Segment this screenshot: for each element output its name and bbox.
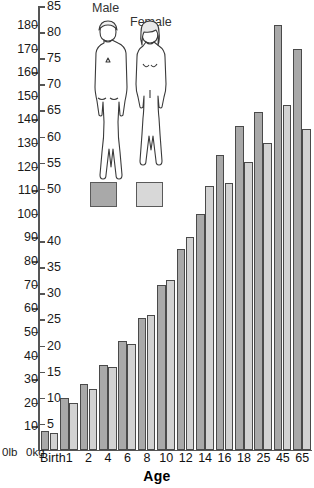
bar-group <box>254 6 273 450</box>
bar-male <box>157 285 166 450</box>
y-tick-label-lb: 160 <box>17 66 38 79</box>
bar-male <box>138 318 147 450</box>
bar-female <box>69 403 78 450</box>
bar-male <box>254 112 263 450</box>
y-tick-label-lb: 140 <box>17 113 38 126</box>
y-tick-label-lb: 20 <box>24 397 38 410</box>
bar-group <box>234 6 253 450</box>
x-tick-label: 25 <box>254 452 273 465</box>
x-tick-label: 14 <box>195 452 214 465</box>
x-tick-label: 12 <box>176 452 195 465</box>
bar-male <box>118 341 127 450</box>
y-tick-label-lb: 130 <box>17 137 38 150</box>
y-tick-label-lb: 170 <box>17 43 38 56</box>
bar-male <box>41 431 50 450</box>
bar-female <box>89 389 98 450</box>
x-axis-title: Age <box>0 468 314 484</box>
bar-female <box>302 129 311 450</box>
x-tick-label: 1 <box>59 452 78 465</box>
bar-female <box>225 183 234 450</box>
bar-male <box>274 25 283 450</box>
bar-group <box>195 6 214 450</box>
y-tick-label-lb: 90 <box>24 231 38 244</box>
bar-group <box>273 6 292 450</box>
bar-female <box>50 433 59 450</box>
y-axis-zero-lb-label: 0lb <box>2 447 17 459</box>
y-tick-label-lb: 120 <box>17 161 38 174</box>
bar-male <box>293 49 302 450</box>
bar-group <box>293 6 312 450</box>
bar-female <box>166 280 175 450</box>
y-tick-label-lb: 180 <box>17 19 38 32</box>
x-tick-label: 65 <box>293 452 312 465</box>
y-tick-label-lb: 80 <box>24 255 38 268</box>
bar-female <box>127 344 136 450</box>
female-body-figure-icon <box>130 18 170 184</box>
bar-male <box>60 398 69 450</box>
legend: Male Female <box>86 2 182 210</box>
bar-male <box>80 384 89 450</box>
legend-label-male: Male <box>92 2 119 15</box>
y-tick-label-lb: 70 <box>24 279 38 292</box>
bar-female <box>186 237 195 450</box>
y-tick-label-lb: 50 <box>24 326 38 339</box>
weight-by-age-chart: 1020304050607080901001101201301401501601… <box>0 0 314 488</box>
x-tick-label: 16 <box>215 452 234 465</box>
y-tick-label-lb: 10 <box>24 420 38 433</box>
x-tick-label: 18 <box>234 452 253 465</box>
x-tick-label: 4 <box>98 452 117 465</box>
x-tick-label: 45 <box>273 452 292 465</box>
y-tick-label-lb: 150 <box>17 90 38 103</box>
legend-swatch-male <box>90 182 117 207</box>
x-tick-label: 8 <box>137 452 156 465</box>
x-tick-label: Birth <box>40 452 59 465</box>
x-tick-label: 10 <box>157 452 176 465</box>
y-tick-label-lb: 30 <box>24 373 38 386</box>
legend-swatch-female <box>136 182 163 207</box>
y-tick-label-lb: 110 <box>18 184 38 197</box>
bar-male <box>177 249 186 450</box>
x-tick-label: 2 <box>79 452 98 465</box>
y-tick-label-lb: 40 <box>24 350 38 363</box>
bar-male <box>196 214 205 450</box>
bar-female <box>108 367 117 450</box>
bar-female <box>205 186 214 451</box>
bar-female <box>283 105 292 450</box>
y-tick-label-lb: 60 <box>24 302 38 315</box>
bar-male <box>99 365 108 450</box>
bar-female <box>263 143 272 450</box>
bar-group <box>59 6 78 450</box>
bar-group <box>215 6 234 450</box>
bar-female <box>244 162 253 450</box>
y-tick-label-lb: 100 <box>17 208 38 221</box>
x-tick-label: 6 <box>118 452 137 465</box>
bar-female <box>147 315 156 450</box>
bar-male <box>235 126 244 450</box>
bar-male <box>216 155 225 450</box>
bar-group <box>40 6 59 450</box>
male-body-figure-icon <box>86 18 130 184</box>
